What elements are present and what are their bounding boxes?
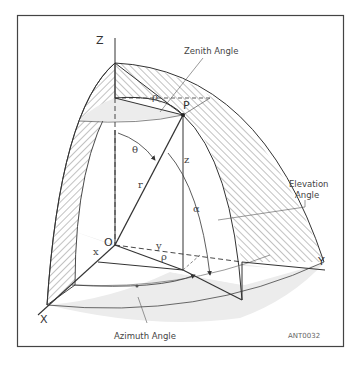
point-p (181, 113, 185, 117)
r-label: r (138, 180, 143, 190)
point-label-p: P (183, 100, 190, 111)
point-label-o: O (104, 237, 113, 248)
zenith-angle-callout: Zenith Angle (184, 47, 238, 56)
axis-label-y: Y (318, 256, 325, 267)
azimuth-angle-callout: Azimuth Angle (114, 332, 176, 341)
axis-label-x: X (40, 314, 48, 325)
elevation-angle-callout-line2: Angle (295, 191, 319, 200)
x-label: x (93, 247, 99, 257)
figure-code: ANT0032 (288, 333, 320, 340)
alpha-label: α (193, 204, 200, 214)
left-hatched-shell (47, 63, 115, 305)
rho-base-label: ρ (161, 252, 167, 262)
elevation-angle-callout-line1: Elevation (289, 180, 328, 189)
y-label: y (156, 241, 162, 251)
theta-label: θ (132, 145, 138, 155)
axis-label-z: Z (96, 35, 104, 46)
rho-top-label: ρ (152, 92, 158, 102)
z-label: z (184, 155, 189, 165)
